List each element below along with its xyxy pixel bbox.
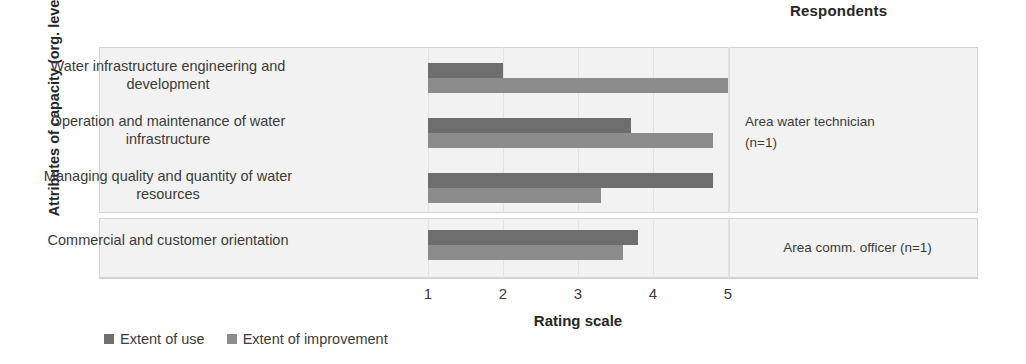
x-axis-title: Rating scale [478,312,678,329]
bar-improvement [428,245,623,260]
x-tick-label: 4 [638,285,668,302]
bar-use [428,173,713,188]
x-tick-label: 3 [563,285,593,302]
x-axis-line [99,278,978,279]
respondent-group-label-1: Area water technician(n=1) [745,112,970,154]
bar-chart: Respondents Attributes of capacity (org.… [0,0,1026,364]
legend: Extent of useExtent of improvement [104,331,388,347]
x-tick-label: 2 [488,285,518,302]
legend-swatch-icon [227,334,237,344]
respondent-label-line: (n=1) [745,133,970,154]
bar-use [428,118,631,133]
legend-item-use[interactable]: Extent of use [104,331,205,347]
bar-improvement [428,78,728,93]
legend-label: Extent of improvement [243,331,388,347]
bar-improvement [428,133,713,148]
category-label: Operation and maintenance of water infra… [12,113,324,148]
bar-improvement [428,188,601,203]
legend-swatch-icon [104,334,114,344]
respondent-group-label-2: Area comm. officer (n=1) [745,238,970,259]
respondent-divider-1 [729,47,730,213]
legend-label: Extent of use [120,331,205,347]
respondent-divider-2 [729,218,730,278]
x-tick-label: 5 [713,285,743,302]
x-tick-label: 1 [413,285,443,302]
category-label: Commercial and customer orientation [12,232,324,250]
bar-use [428,230,638,245]
gridline-4 [653,218,654,278]
bar-use [428,63,503,78]
gridline-4 [653,47,654,213]
category-label: Water infrastructure engineering and dev… [12,58,324,93]
legend-item-improvement[interactable]: Extent of improvement [227,331,388,347]
respondent-label-line: Area water technician [745,112,970,133]
respondents-title: Respondents [790,2,887,19]
category-label: Managing quality and quantity of water r… [12,168,324,203]
